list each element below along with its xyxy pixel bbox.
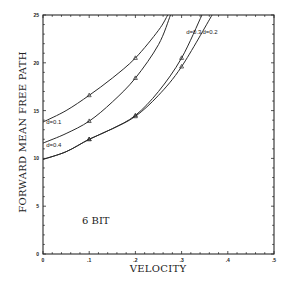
data-markers	[87, 56, 183, 141]
annotation-6-bit: 6 BIT	[82, 215, 110, 226]
y-axis-title: FORWARD MEAN FREE PATH	[17, 51, 28, 213]
curve-d-0-4	[43, 15, 171, 143]
curve-label-d-0-3: d=0.3	[186, 29, 202, 35]
curve-d-0-3	[43, 15, 202, 159]
plot-frame	[43, 15, 274, 254]
y-tick-label: 10	[33, 155, 39, 161]
axis-ticks	[43, 15, 274, 254]
x-tick-label: .5	[272, 257, 276, 263]
x-axis-title: VELOCITY	[129, 263, 187, 274]
x-tick-label: .4	[226, 257, 230, 263]
curve-d-0-1	[43, 15, 168, 122]
chart: 0.1.2.3.4.50510152025 d=0.1d=0.4d=0.3d=0…	[0, 0, 290, 295]
y-tick-label: 20	[33, 60, 39, 66]
x-tick-label: 0	[42, 257, 45, 263]
curve-label-d-0-2: d=0.2	[202, 29, 218, 35]
y-tick-label: 5	[36, 203, 39, 209]
curve-label-d-0-4: d=0.4	[46, 142, 62, 148]
curve-label-d-0-1: d=0.1	[46, 119, 62, 125]
curve-labels: d=0.1d=0.4d=0.3d=0.2	[46, 29, 218, 148]
y-tick-label: 25	[33, 12, 39, 18]
y-tick-label: 15	[33, 108, 39, 114]
tick-labels: 0.1.2.3.4.50510152025	[33, 12, 276, 263]
data-curves	[43, 15, 212, 159]
x-tick-label: .1	[87, 257, 91, 263]
y-tick-label: 0	[36, 251, 39, 257]
